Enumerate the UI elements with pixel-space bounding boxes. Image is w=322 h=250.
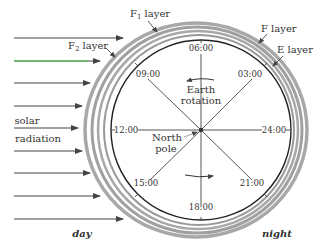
f2-layer-label: F2 layer (68, 40, 108, 53)
ionosphere-diagram: 06:00 03:00 24:00 21:00 18:00 15:00 12:0… (0, 0, 322, 250)
f2-layer-pointer (106, 48, 115, 57)
day-label: day (72, 228, 92, 239)
time-label-1800: 18:00 (189, 202, 214, 212)
radiation-label: radiation (15, 133, 62, 144)
time-label-0300: 03:00 (238, 69, 263, 79)
rotation-label: rotation (181, 95, 222, 106)
time-label-1200: 12:00 (114, 125, 139, 135)
solar-label: solar (14, 115, 39, 126)
time-label-1500: 15:00 (134, 178, 159, 188)
time-label-2400: 24:00 (262, 125, 287, 135)
f-layer-pointer (259, 34, 267, 43)
time-label-2100: 21:00 (240, 178, 265, 188)
earth-label: Earth (187, 84, 216, 95)
time-label-0600: 06:00 (189, 43, 214, 53)
f-layer-label: F layer (261, 23, 297, 34)
time-label-0900: 09:00 (136, 69, 161, 79)
north-pole-dot (199, 128, 203, 132)
f1-layer-label: F1 layer (130, 8, 170, 21)
pole-label: pole (155, 143, 177, 154)
north-label: North (152, 132, 183, 143)
night-label: night (262, 228, 292, 239)
e-layer-label: E layer (277, 44, 313, 55)
